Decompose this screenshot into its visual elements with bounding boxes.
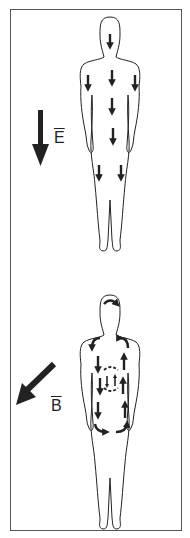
eddy-current-arrows-bottom [92, 301, 128, 433]
magnetic-field-arrow [16, 364, 54, 405]
electric-field-label: E [54, 130, 65, 146]
human-body-outline-bottom [80, 295, 140, 529]
electric-field-arrow [32, 110, 49, 166]
diagram-canvas [0, 0, 190, 538]
human-body-outline-top [80, 17, 140, 251]
magnetic-field-label: B [51, 398, 62, 414]
